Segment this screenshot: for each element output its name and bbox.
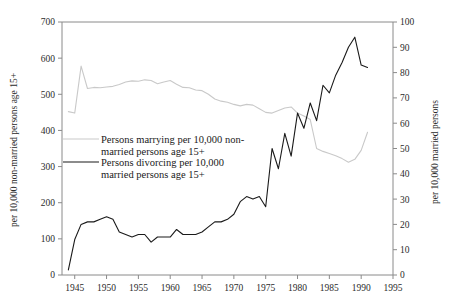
right-tick-label: 30 — [400, 195, 410, 205]
legend-label-divorcing-line2: married persons age 15+ — [101, 169, 205, 180]
x-tick-label: 1945 — [65, 283, 84, 293]
line-chart: 0100200300400500600700 01020304050607080… — [0, 0, 449, 308]
chart-container: 0100200300400500600700 01020304050607080… — [0, 0, 449, 308]
right-axis-ticks: 0102030405060708090100 — [393, 17, 415, 280]
x-tick-label: 1990 — [352, 283, 371, 293]
legend-label-divorcing-line1: Persons divorcing per 10,000 — [101, 157, 224, 168]
left-tick-label: 200 — [41, 198, 56, 208]
legend-label-marrying-line2: married persons age 15+ — [101, 146, 205, 157]
right-tick-label: 70 — [400, 93, 410, 103]
x-tick-label: 1955 — [129, 283, 148, 293]
right-tick-label: 40 — [400, 169, 410, 179]
x-tick-label: 1975 — [256, 283, 275, 293]
right-tick-label: 80 — [400, 68, 410, 78]
legend-label-marrying-line1: Persons marrying per 10,000 non- — [101, 134, 245, 145]
right-tick-label: 100 — [400, 17, 415, 27]
left-tick-label: 600 — [41, 54, 56, 64]
right-tick-label: 50 — [400, 144, 410, 154]
left-tick-label: 700 — [41, 17, 56, 27]
left-axis-title: per 10,000 non-married persons age 15+ — [9, 73, 19, 227]
left-tick-label: 300 — [41, 162, 56, 172]
left-tick-label: 0 — [50, 270, 55, 280]
right-tick-label: 20 — [400, 220, 410, 230]
x-tick-label: 1980 — [288, 283, 307, 293]
x-tick-label: 1970 — [224, 283, 243, 293]
left-tick-label: 500 — [41, 90, 56, 100]
legend: Persons marrying per 10,000 non- married… — [63, 134, 245, 180]
x-tick-label: 1995 — [384, 283, 403, 293]
x-tick-label: 1985 — [320, 283, 339, 293]
right-tick-label: 90 — [400, 43, 410, 53]
right-axis-title: per 10,000 married persons — [430, 100, 440, 204]
x-tick-label: 1950 — [97, 283, 116, 293]
x-tick-label: 1960 — [161, 283, 180, 293]
left-tick-label: 400 — [41, 126, 56, 136]
left-tick-label: 100 — [41, 234, 56, 244]
left-axis-ticks: 0100200300400500600700 — [41, 17, 62, 280]
x-axis-ticks: 1945195019551960196519701975198019851990… — [65, 275, 403, 293]
right-tick-label: 10 — [400, 245, 410, 255]
right-tick-label: 0 — [400, 270, 405, 280]
right-tick-label: 60 — [400, 119, 410, 129]
x-tick-label: 1965 — [193, 283, 212, 293]
